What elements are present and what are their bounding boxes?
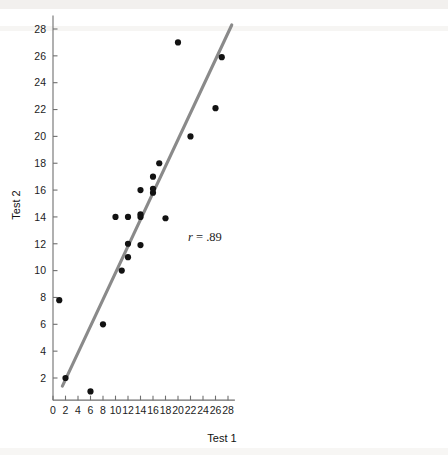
- x-axis-title: Test 1: [207, 432, 236, 444]
- correlation-annotation: r = .89: [188, 230, 222, 244]
- x-tick-label: 8: [100, 404, 106, 416]
- data-point: [125, 241, 131, 247]
- scatterplot-figure: 0246810121416182022242628 24681012141618…: [0, 0, 448, 455]
- data-point: [137, 242, 143, 248]
- data-point: [150, 174, 156, 180]
- x-tick-label: 0: [50, 404, 56, 416]
- y-tick-label: 2: [40, 372, 46, 384]
- data-point: [156, 160, 162, 166]
- regression-line: [62, 25, 231, 386]
- x-tick-label: 26: [210, 404, 222, 416]
- x-tick-label: 12: [122, 404, 134, 416]
- x-tick-label: 2: [63, 404, 69, 416]
- y-tick-label: 8: [40, 291, 46, 303]
- data-point: [175, 39, 181, 45]
- data-point: [87, 388, 93, 394]
- annotations-group: r = .89: [188, 230, 222, 244]
- x-tick-label: 10: [110, 404, 122, 416]
- y-tick-label: 16: [34, 184, 46, 196]
- x-tick-label: 18: [160, 404, 172, 416]
- data-point: [187, 133, 193, 139]
- y-axis-ticks: 246810121416182022242628: [34, 23, 57, 384]
- regression-fit-line: [62, 25, 231, 386]
- y-tick-label: 12: [34, 238, 46, 250]
- y-tick-label: 6: [40, 318, 46, 330]
- y-tick-label: 28: [34, 23, 46, 35]
- y-tick-label: 22: [34, 103, 46, 115]
- data-point: [125, 214, 131, 220]
- data-point: [137, 187, 143, 193]
- x-tick-label: 16: [147, 404, 159, 416]
- x-tick-label: 4: [75, 404, 81, 416]
- x-tick-label: 28: [222, 404, 234, 416]
- x-tick-label: 22: [185, 404, 197, 416]
- y-axis-title: Test 2: [10, 190, 22, 219]
- x-tick-label: 6: [88, 404, 94, 416]
- x-axis-ticks: 0246810121416182022242628: [50, 396, 234, 417]
- y-tick-label: 26: [34, 50, 46, 62]
- plot-canvas: 0246810121416182022242628 24681012141618…: [0, 0, 448, 455]
- y-tick-label: 18: [34, 157, 46, 169]
- data-point: [112, 214, 118, 220]
- data-point: [125, 254, 131, 260]
- y-tick-label: 10: [34, 264, 46, 276]
- correlation-value: = .89: [193, 230, 222, 244]
- y-tick-label: 14: [34, 211, 46, 223]
- x-tick-label: 14: [135, 404, 147, 416]
- data-point: [119, 268, 125, 274]
- data-point: [56, 297, 62, 303]
- x-tick-label: 24: [197, 404, 209, 416]
- y-tick-label: 20: [34, 130, 46, 142]
- x-tick-label: 20: [172, 404, 184, 416]
- data-point: [212, 105, 218, 111]
- data-point: [162, 215, 168, 221]
- y-tick-label: 4: [40, 345, 46, 357]
- data-point: [150, 186, 156, 192]
- data-point: [100, 321, 106, 327]
- data-point: [62, 375, 68, 381]
- y-tick-label: 24: [34, 76, 46, 88]
- data-point: [219, 54, 225, 60]
- data-point: [137, 211, 143, 217]
